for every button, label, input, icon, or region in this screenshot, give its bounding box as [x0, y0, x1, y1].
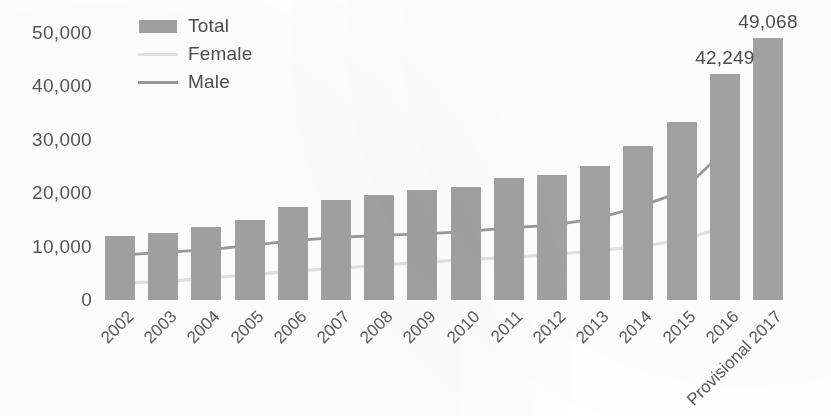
bar [537, 175, 567, 300]
bar [105, 236, 135, 300]
chart-container: 010,00020,00030,00040,00050,000 42,24949… [0, 0, 831, 416]
legend-label: Male [182, 71, 230, 93]
y-axis-tick-label: 50,000 [0, 22, 92, 44]
legend: TotalFemaleMale [134, 12, 364, 96]
legend-label: Total [182, 15, 229, 37]
bar-swatch-icon [134, 20, 182, 33]
legend-swatch [138, 81, 178, 84]
bar-value-label: 42,249 [695, 47, 754, 69]
y-axis-tick-label: 20,000 [0, 182, 92, 204]
bar [710, 74, 740, 300]
y-axis-tick-label: 30,000 [0, 129, 92, 151]
legend-item-female: Female [134, 40, 364, 68]
bar [580, 166, 610, 300]
y-axis-tick-label: 0 [0, 289, 92, 311]
bar [623, 146, 653, 300]
bar-value-label: 49,068 [738, 11, 797, 33]
legend-swatch [138, 53, 178, 56]
y-axis-tick-label: 40,000 [0, 75, 92, 97]
legend-item-male: Male [134, 68, 364, 96]
legend-swatch [139, 20, 177, 33]
legend-label: Female [182, 43, 253, 65]
legend-item-total: Total [134, 12, 364, 40]
y-axis-tick-label: 10,000 [0, 236, 92, 258]
line-swatch-icon [134, 81, 182, 84]
bar [667, 122, 697, 300]
line-swatch-icon [134, 53, 182, 56]
y-axis: 010,00020,00030,00040,00050,000 [0, 0, 92, 416]
bar [753, 38, 783, 300]
